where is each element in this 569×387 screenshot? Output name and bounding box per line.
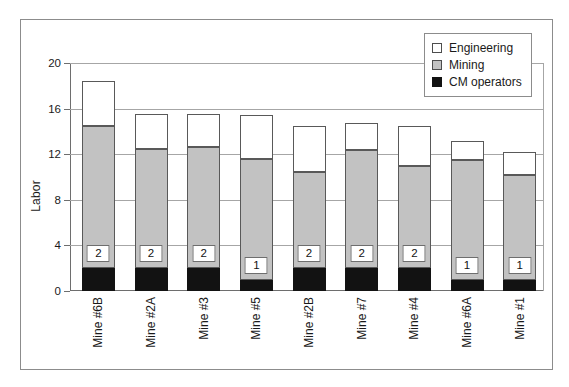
y-axis-line — [70, 63, 71, 291]
gray-square-icon — [432, 60, 442, 70]
bar-segment-engineering[interactable] — [187, 114, 220, 147]
x-axis-category-label: Mine #6B — [91, 297, 105, 381]
x-axis-category-label: Mine #7 — [355, 297, 369, 381]
bar-stack: 1 — [503, 152, 536, 291]
x-axis-category-label: Mine #4 — [407, 297, 421, 381]
x-axis-category-label: Mine #3 — [197, 297, 211, 381]
bar-data-label: 1 — [508, 257, 531, 274]
bar-data-label: 2 — [298, 245, 321, 262]
bar-segment-engineering[interactable] — [398, 126, 431, 166]
y-axis-title: Labor — [29, 82, 45, 310]
plot-area: 048121620 2Mine #6B2Mine #2A2Mine #31Min… — [70, 63, 544, 291]
bar-segment-cm-operators[interactable] — [293, 268, 326, 291]
y-tick-label: 8 — [55, 194, 61, 206]
bar-stack: 2 — [82, 81, 115, 291]
bar-group[interactable]: 2Mine #2A — [135, 63, 168, 291]
legend-item[interactable]: CM operators — [432, 73, 522, 90]
chart-legend: EngineeringMiningCM operators — [424, 33, 532, 97]
bar-segment-cm-operators[interactable] — [451, 280, 484, 291]
x-axis-category-label: Mine #2A — [144, 297, 158, 381]
bar-group[interactable]: 2Mine #2B — [293, 63, 326, 291]
bar-segment-cm-operators[interactable] — [503, 280, 536, 291]
bar-data-label: 2 — [87, 245, 110, 262]
legend-item-label: Engineering — [449, 41, 513, 55]
bar-group[interactable]: 1Mine #1 — [503, 63, 536, 291]
bar-segment-engineering[interactable] — [345, 123, 378, 149]
bar-stack: 2 — [135, 114, 168, 291]
y-tick-mark — [64, 200, 70, 201]
black-square-icon — [432, 77, 442, 87]
y-tick-mark — [64, 154, 70, 155]
bar-segment-engineering[interactable] — [240, 115, 273, 158]
bar-stack: 2 — [293, 126, 326, 291]
y-tick-label: 4 — [55, 239, 61, 251]
bar-data-label: 2 — [350, 245, 373, 262]
bar-stack: 2 — [187, 114, 220, 291]
y-tick-label: 0 — [55, 285, 61, 297]
bar-segment-engineering[interactable] — [82, 81, 115, 125]
x-axis-category-label: Mine #1 — [513, 297, 527, 381]
y-tick-label: 12 — [48, 148, 61, 160]
bar-segment-cm-operators[interactable] — [82, 268, 115, 291]
bar-segment-engineering[interactable] — [503, 152, 536, 175]
x-axis-category-label: Mine #2B — [302, 297, 316, 381]
bar-stack: 2 — [398, 126, 431, 291]
bar-group[interactable]: 2Mine #6B — [82, 63, 115, 291]
bar-data-label: 1 — [456, 257, 479, 274]
bar-data-label: 2 — [192, 245, 215, 262]
bar-data-label: 1 — [245, 257, 268, 274]
bar-segment-cm-operators[interactable] — [135, 268, 168, 291]
y-tick-mark — [64, 291, 70, 292]
bar-segment-cm-operators[interactable] — [240, 280, 273, 291]
y-tick-label: 16 — [48, 103, 61, 115]
legend-item[interactable]: Mining — [432, 56, 522, 73]
chart-figure: Labor 048121620 2Mine #6B2Mine #2A2Mine … — [20, 19, 553, 370]
bar-group[interactable]: 2Mine #3 — [187, 63, 220, 291]
bar-segment-engineering[interactable] — [293, 126, 326, 173]
white-square-icon — [432, 43, 442, 53]
legend-item-label: CM operators — [449, 75, 522, 89]
y-tick-label: 20 — [48, 57, 61, 69]
legend-item-label: Mining — [449, 58, 484, 72]
bar-group[interactable]: 2Mine #7 — [345, 63, 378, 291]
bar-stack: 2 — [345, 123, 378, 291]
y-tick-mark — [64, 63, 70, 64]
bar-group[interactable]: 2Mine #4 — [398, 63, 431, 291]
bar-data-label: 2 — [403, 245, 426, 262]
bar-stack: 1 — [451, 141, 484, 291]
bar-segment-engineering[interactable] — [135, 114, 168, 148]
bar-data-label: 2 — [140, 245, 163, 262]
bar-segment-engineering[interactable] — [451, 141, 484, 160]
bar-segment-cm-operators[interactable] — [187, 268, 220, 291]
legend-item[interactable]: Engineering — [432, 39, 522, 56]
bar-stack: 1 — [240, 115, 273, 291]
bar-segment-cm-operators[interactable] — [398, 268, 431, 291]
y-tick-mark — [64, 109, 70, 110]
plot-right-border — [543, 63, 544, 291]
x-axis-category-label: Mine #6A — [460, 297, 474, 381]
y-tick-mark — [64, 245, 70, 246]
bar-segment-cm-operators[interactable] — [345, 268, 378, 291]
bar-group[interactable]: 1Mine #5 — [240, 63, 273, 291]
x-axis-category-label: Mine #5 — [249, 297, 263, 381]
bar-group[interactable]: 1Mine #6A — [451, 63, 484, 291]
